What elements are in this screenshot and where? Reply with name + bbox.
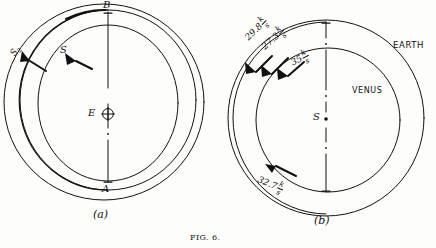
figure-drawing [0,0,436,248]
panel-a-point-b-label: B [103,0,110,10]
panel-a-arrow-tail-outer [30,61,46,71]
sun-point-marker [324,117,328,121]
panel-a-point-a-label: A [102,184,109,194]
figure-page: B A E S2 S (a) EARTH VENUS S 29.8ks 27.3… [0,0,436,248]
panel-b-axis-dot3 [325,147,327,149]
panel-b-axis-dot2 [325,95,327,97]
venus-orbit-label: VENUS [352,87,382,95]
panel-a-center-label: E [88,108,95,118]
panel-a-outer-circle [4,4,204,200]
velocity-arrowhead-32-7 [265,164,276,173]
panel-a-axis-dot [107,133,109,135]
panel-a-caption: (a) [93,209,108,220]
velocity-arrow-tail-32-7 [276,166,296,176]
panel-a-arrow-tail-inner [76,61,92,69]
velocity-arrowhead-29-8 [245,62,256,74]
panel-a-drawing [4,4,204,200]
panel-b-caption: (b) [314,215,330,226]
velocity-arrowhead-35 [277,68,288,80]
panel-b-axis-dot1 [325,43,327,45]
figure-caption: FIG. 6. [190,234,220,242]
sun-center-label: S [313,112,320,122]
earth-orbit-label: EARTH [393,41,424,50]
velocity-arrowhead-27-3 [261,65,272,77]
panel-a-arrow-label-inner: S [60,45,67,55]
